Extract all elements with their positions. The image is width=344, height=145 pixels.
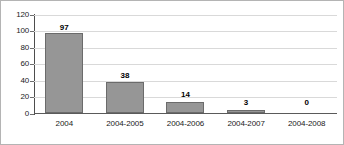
x-tick-label-2004-2008: 2004-2008 xyxy=(276,119,337,128)
bar-value-2004: 97 xyxy=(60,24,69,32)
y-tick-label-0: 0 xyxy=(5,110,29,118)
bar-value-2004-2007: 3 xyxy=(244,99,248,107)
x-axis-line xyxy=(34,113,337,114)
bar-slot-2004-2008: 0 xyxy=(276,15,337,113)
bar-slot-2004: 97 xyxy=(34,15,95,113)
bar-slot-2004-2005: 38 xyxy=(95,15,156,113)
bar-value-2004-2005: 38 xyxy=(120,72,129,80)
y-tick-label-20: 20 xyxy=(5,93,29,101)
bar-2004 xyxy=(45,33,83,113)
x-tick-label-2004: 2004 xyxy=(34,119,95,128)
bar-2004-2005 xyxy=(106,82,144,113)
y-axis-labels: 120 100 80 60 40 20 0 xyxy=(1,1,29,145)
y-tick-label-60: 60 xyxy=(5,60,29,68)
y-tick-label-100: 100 xyxy=(5,27,29,35)
plot-area: 97 38 14 3 0 xyxy=(34,15,337,114)
bar-slot-2004-2007: 3 xyxy=(216,15,277,113)
x-tick-label-2004-2005: 2004-2005 xyxy=(95,119,156,128)
bar-2004-2006 xyxy=(166,102,204,114)
bar-slot-2004-2006: 14 xyxy=(155,15,216,113)
x-tick-label-2004-2007: 2004-2007 xyxy=(216,119,277,128)
y-tick-label-40: 40 xyxy=(5,77,29,85)
bar-value-2004-2008: 0 xyxy=(304,99,308,107)
bar-2004-2007 xyxy=(227,110,265,113)
y-tick-label-80: 80 xyxy=(5,44,29,52)
x-axis-labels: 2004 2004-2005 2004-2006 2004-2007 2004-… xyxy=(34,119,337,139)
bar-chart-figure: 120 100 80 60 40 20 0 97 38 14 xyxy=(0,0,344,145)
y-tick-label-120: 120 xyxy=(5,11,29,19)
x-tick-label-2004-2006: 2004-2006 xyxy=(155,119,216,128)
bar-value-2004-2006: 14 xyxy=(181,91,190,99)
